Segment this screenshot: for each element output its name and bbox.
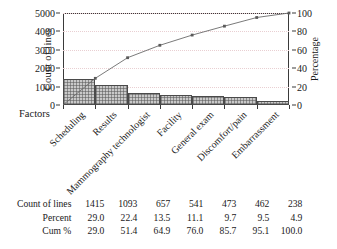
table-cell: 9.7	[203, 212, 236, 226]
tick-mark	[292, 105, 296, 106]
x-axis-tick	[224, 105, 225, 109]
line-marker	[158, 44, 161, 47]
line-marker	[223, 25, 226, 28]
tick-label: 5000	[35, 8, 55, 19]
table-row: Count of lines14151093657541473462238	[17, 198, 302, 212]
tick-mark	[56, 68, 60, 69]
table-row: Cum %29.051.464.976.085.795.1100.0	[17, 225, 302, 239]
table-cell: 85.7	[203, 225, 236, 239]
table-row-label: Count of lines	[17, 198, 71, 212]
line-marker	[191, 34, 194, 37]
x-axis-tick	[289, 105, 290, 109]
table-cell: 462	[236, 198, 269, 212]
x-axis-tick	[257, 105, 258, 109]
tick-mark	[292, 86, 296, 87]
tick-mark	[56, 49, 60, 50]
line-marker	[94, 77, 97, 80]
tick-mark	[292, 13, 296, 14]
table-row-label: Percent	[17, 212, 71, 226]
y-axis-left-title: Count of lines	[42, 28, 53, 90]
table-cell: 29.0	[71, 225, 104, 239]
table-cell: 1093	[104, 198, 137, 212]
tick-label: 0	[297, 100, 302, 111]
y-axis-right-title: Percentage	[310, 37, 321, 81]
tick-mark	[292, 68, 296, 69]
table-cell: 541	[170, 198, 203, 212]
x-axis-tick	[192, 105, 193, 109]
x-axis-tick	[63, 105, 64, 109]
table-cell: 4.9	[269, 212, 302, 226]
tick-label: 60	[297, 44, 307, 55]
data-table: Count of lines14151093657541473462238Per…	[0, 198, 337, 239]
table-cell: 1415	[71, 198, 104, 212]
table-cell: 9.5	[236, 212, 269, 226]
table-cell: 238	[269, 198, 302, 212]
tick-mark	[56, 13, 60, 14]
table-cell: 22.4	[104, 212, 137, 226]
table-cell: 100.0	[269, 225, 302, 239]
plot-area: 010002000300040005000 020406080100 Count…	[63, 13, 289, 105]
tick-mark	[292, 49, 296, 50]
tick-label: 20	[297, 81, 307, 92]
cumulative-percentage-line	[63, 13, 289, 105]
table-cell: 657	[137, 198, 170, 212]
table-cell: 64.9	[137, 225, 170, 239]
table-row-label: Cum %	[17, 225, 71, 239]
tick-mark	[292, 31, 296, 32]
line-marker	[255, 16, 258, 19]
table-cell: 473	[203, 198, 236, 212]
tick-label: 0	[50, 100, 55, 111]
line-marker	[126, 56, 129, 59]
category-label: Facility	[154, 109, 183, 138]
table-cell: 76.0	[170, 225, 203, 239]
table-cell: 95.1	[236, 225, 269, 239]
tick-mark	[56, 105, 60, 106]
table-cell: 51.4	[104, 225, 137, 239]
table-cell: 29.0	[71, 212, 104, 226]
table-row: Percent29.022.413.511.19.79.54.9	[17, 212, 302, 226]
cumulative-line-path	[63, 13, 289, 105]
table-cell: 13.5	[137, 212, 170, 226]
category-label: Results	[91, 109, 120, 138]
tick-mark	[56, 86, 60, 87]
pareto-chart-figure: 010002000300040005000 020406080100 Count…	[0, 0, 337, 249]
tick-label: 80	[297, 26, 307, 37]
category-label: Scheduling	[47, 109, 87, 149]
x-axis-tick	[160, 105, 161, 109]
tick-label: 100	[297, 8, 312, 19]
line-marker	[288, 12, 291, 15]
tick-mark	[56, 31, 60, 32]
table-cell: 11.1	[170, 212, 203, 226]
tick-label: 40	[297, 63, 307, 74]
x-axis-tick	[128, 105, 129, 109]
x-axis-tick	[95, 105, 96, 109]
x-axis-title: Factors	[19, 108, 50, 119]
